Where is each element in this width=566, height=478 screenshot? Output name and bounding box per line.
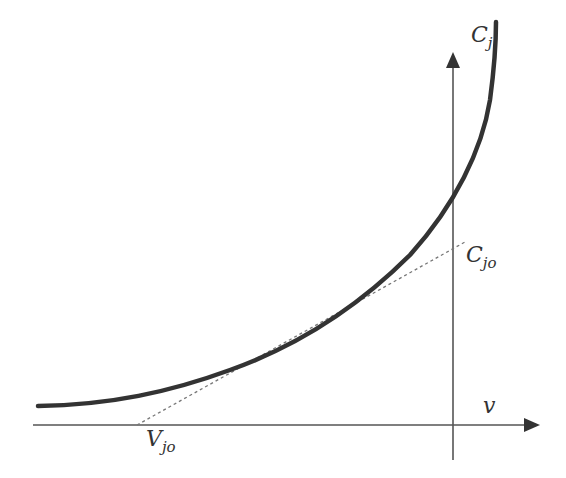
x-axis-arrow-icon xyxy=(524,418,540,432)
y-axis-label: Cj xyxy=(471,22,493,52)
x-axis-label: v xyxy=(483,393,496,418)
capacitance-curve xyxy=(38,22,496,406)
cjo-label: Cjo xyxy=(466,242,497,272)
vjo-label: Vjo xyxy=(146,426,176,456)
y-axis-arrow-icon xyxy=(446,52,460,68)
junction-capacitance-diagram: Cj Cjo v Vjo xyxy=(0,0,566,478)
tangent-line xyxy=(137,242,465,425)
